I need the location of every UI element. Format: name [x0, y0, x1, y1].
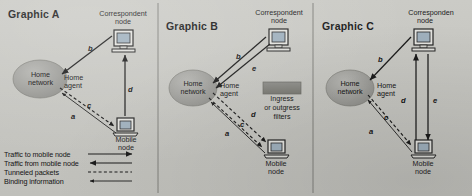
graphic-a-edge-label-b: b — [88, 44, 93, 53]
graphic-b-edge-label-e: e — [252, 64, 256, 73]
desktop-computer-icon-c — [412, 29, 435, 51]
legend-marks-a — [88, 154, 132, 181]
graphic-b-filter-label-line1: Ingress — [252, 95, 312, 103]
graphic-c-edge-label-d: d — [401, 96, 406, 105]
graphic-c-edge-label-e: e — [433, 96, 437, 105]
graphic-b-edge-label-a: a — [225, 129, 229, 138]
graphic-a-edge-label-d: d — [128, 85, 133, 94]
graphic-c-edge-label-b: b — [378, 55, 383, 64]
graphic-a-title: Graphic A — [8, 8, 60, 20]
laptop-computer-icon-a — [113, 118, 138, 136]
graphic-a-mobile-node-label-line2: node — [108, 144, 144, 152]
graphic-c-home-agent-label-line2: agent — [377, 90, 395, 98]
graphic-b-mobile-node-label-line2: node — [258, 168, 294, 176]
graphic-b-correspondent-node-label-line2: node — [242, 17, 316, 25]
graphic-c-home-network-label-line2: network — [327, 88, 373, 96]
graphic-b-home-agent-label-line2: agent — [220, 90, 238, 98]
graphic-a-edge-label-c: c — [87, 101, 91, 110]
graphic-b-edge-label-c: c — [240, 120, 244, 129]
graphic-c-edge-label-a: a — [369, 127, 373, 136]
graphic-a-edge-label-a: a — [71, 112, 75, 121]
graphic-a-home-network-label-line2: network — [16, 79, 65, 87]
graphic-b-title: Graphic B — [166, 20, 218, 32]
graphic-b-edge-label-d: d — [251, 110, 256, 119]
graphic-c-correspondent-node-label-line2: node — [388, 17, 462, 25]
graphic-b-edge-label-b: b — [236, 52, 241, 61]
graphic-c-title: Graphic C — [322, 20, 374, 32]
legend-item-tunneled-packets: Tunneled packets — [4, 168, 59, 177]
legend-item-traffic-from-mobile-node: Traffic from mobile node — [4, 159, 79, 168]
laptop-computer-icon-c — [411, 140, 436, 158]
filter-box-icon — [263, 82, 301, 94]
laptop-computer-icon-b — [264, 140, 289, 158]
legend-item-binding-information: Binding information — [4, 177, 64, 186]
graphic-c-edge-label-c: c — [384, 113, 388, 122]
diagram-canvas: Graphic A Correspondent node Home networ… — [0, 0, 472, 196]
legend-item-traffic-to-mobile-node: Traffic to mobile node — [4, 150, 71, 159]
desktop-computer-icon-b — [267, 29, 290, 51]
desktop-computer-icon-a — [112, 30, 135, 52]
graphic-c-mobile-node-label-line2: node — [405, 168, 441, 176]
graphic-a-home-agent-label-line2: agent — [64, 82, 82, 90]
graphic-a-correspondent-node-label-line2: node — [86, 18, 160, 26]
graphic-b-filter-label-line2: or outgress — [252, 104, 312, 112]
graphic-b-filter-label-line3: filters — [252, 113, 312, 121]
graphic-b-home-network-label-line2: network — [170, 88, 216, 96]
